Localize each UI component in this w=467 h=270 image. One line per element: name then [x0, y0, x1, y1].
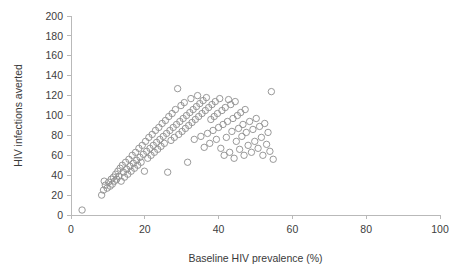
data-point [188, 95, 194, 101]
data-point [164, 169, 170, 175]
data-point [223, 134, 229, 140]
data-point [250, 126, 256, 132]
data-point-group [79, 85, 277, 213]
data-point [141, 168, 147, 174]
data-point [268, 88, 274, 94]
data-point [218, 145, 224, 151]
data-point [220, 121, 226, 127]
scatter-chart: 020406080100120140160180200020406080100B… [0, 0, 467, 270]
data-point [232, 98, 238, 104]
data-point [245, 142, 251, 148]
data-point [79, 207, 85, 213]
data-point [258, 134, 264, 140]
data-point [255, 145, 261, 151]
data-point [236, 146, 242, 152]
y-tick-label: 80 [51, 129, 63, 141]
data-point [198, 133, 204, 139]
data-point [233, 138, 239, 144]
data-point [246, 118, 252, 124]
y-tick-label: 140 [45, 69, 63, 81]
data-point [101, 178, 107, 184]
y-tick-label: 160 [45, 49, 63, 61]
data-point [217, 95, 223, 101]
y-tick-label: 180 [45, 30, 63, 42]
y-axis-title: HIV infections averted [12, 64, 24, 167]
data-point [213, 136, 219, 142]
data-point [260, 152, 266, 158]
y-tick-label: 200 [45, 10, 63, 22]
data-point [201, 144, 207, 150]
y-tick-label: 100 [45, 109, 63, 121]
x-tick-label: 0 [68, 223, 74, 235]
data-point [226, 149, 232, 155]
y-tick-label: 40 [51, 169, 63, 181]
plot-area: 020406080100120140160180200020406080100B… [0, 0, 467, 270]
y-tick-label: 60 [51, 149, 63, 161]
data-point [241, 152, 247, 158]
x-tick-label: 60 [287, 223, 299, 235]
data-point [265, 129, 271, 135]
data-point [263, 141, 269, 147]
x-tick-label: 40 [213, 223, 225, 235]
y-tick-label: 120 [45, 89, 63, 101]
data-point [194, 92, 200, 98]
data-point [270, 156, 276, 162]
data-point [191, 136, 197, 142]
data-point [262, 120, 268, 126]
data-point [240, 121, 246, 127]
data-point [252, 138, 258, 144]
x-tick-label: 80 [360, 223, 372, 235]
data-point [248, 149, 254, 155]
data-point [142, 138, 148, 144]
data-point [172, 106, 178, 112]
x-tick-label: 20 [139, 223, 151, 235]
data-point [253, 115, 259, 121]
data-point [174, 85, 180, 91]
data-point [229, 128, 235, 134]
data-point [230, 115, 236, 121]
data-point [231, 155, 237, 161]
data-point [242, 106, 248, 112]
data-point [243, 129, 249, 135]
x-axis-title: Baseline HIV prevalence (%) [188, 252, 322, 264]
data-point [267, 148, 273, 154]
data-point [215, 124, 221, 130]
x-tick-label: 100 [431, 223, 449, 235]
y-tick-label: 0 [57, 209, 63, 221]
y-tick-label: 20 [51, 189, 63, 201]
data-point [207, 140, 213, 146]
data-point [184, 159, 190, 165]
